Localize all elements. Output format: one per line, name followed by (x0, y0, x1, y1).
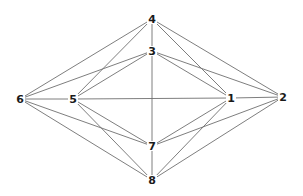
edge-5-4 (73, 19, 152, 99)
node-label-8: 8 (148, 174, 156, 187)
edge-1-2 (231, 97, 283, 98)
node-label-3: 3 (148, 45, 156, 58)
node-label-5: 5 (69, 93, 77, 106)
edge-6-3 (20, 51, 152, 99)
edges-group (20, 19, 283, 180)
edge-5-8 (73, 99, 152, 180)
node-label-7: 7 (148, 140, 156, 153)
node-label-1: 1 (227, 92, 235, 105)
graph-diagram: 12345678 (0, 0, 303, 196)
node-label-4: 4 (148, 13, 156, 26)
edge-6-7 (20, 99, 152, 146)
edge-6-4 (20, 19, 152, 99)
nodes-group: 12345678 (15, 13, 288, 187)
node-label-2: 2 (279, 91, 287, 104)
node-label-6: 6 (16, 93, 24, 106)
edge-6-8 (20, 99, 152, 180)
